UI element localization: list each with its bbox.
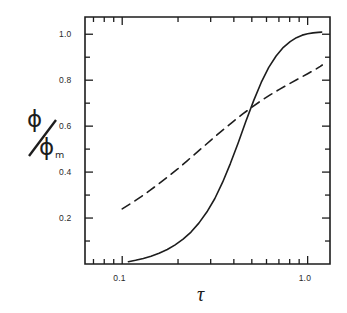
series-dashed-curve <box>122 65 322 209</box>
axis-frame-rect <box>85 17 330 264</box>
y-axis-label: ϕ ϕ m <box>20 108 68 170</box>
x-axis-label: τ <box>197 283 204 306</box>
y-tick-label: 0.2 <box>59 213 71 223</box>
y-axis-label-denominator-subscript: m <box>55 150 64 160</box>
x-tick-label: 0.1 <box>113 273 125 283</box>
y-axis-minor-ticks <box>85 57 330 241</box>
series-solid-curve <box>128 32 321 262</box>
y-tick-label: 1.0 <box>59 29 71 39</box>
axes-frame <box>85 17 330 264</box>
x-axis-major-ticks <box>122 17 307 264</box>
y-tick-label: 0.8 <box>59 75 71 85</box>
x-tick-label: 1.0 <box>299 273 311 283</box>
y-axis-major-ticks <box>85 34 330 218</box>
figure-canvas: 0.20.40.60.81.0 0.11.0 ϕ ϕ m τ <box>0 0 347 313</box>
y-axis-label-denominator: ϕ <box>39 136 54 159</box>
data-series-layer <box>122 32 322 262</box>
